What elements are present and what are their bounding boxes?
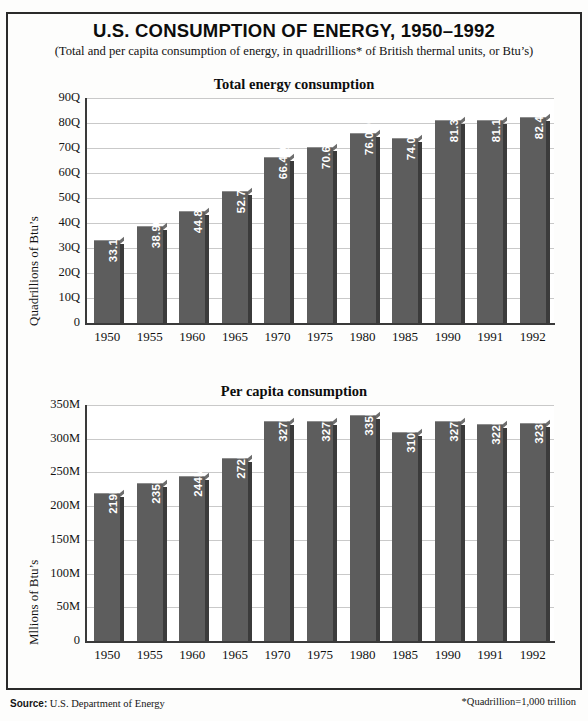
bar-rect[interactable]: 244M (179, 476, 205, 641)
bar-rect[interactable]: 327M (435, 421, 461, 641)
bar-rect[interactable]: 82.4Q (520, 117, 546, 323)
bar-rect[interactable]: 310M (392, 432, 418, 641)
bar[interactable]: 82.4Q (520, 98, 546, 323)
bar-value-label: 219M (107, 485, 119, 515)
y-axis-tick-label: 30Q (24, 240, 80, 255)
bar-value-label: 38.9Q (150, 216, 162, 248)
chart-total-energy-consumption: Total energy consumptionQuadrillions of … (0, 76, 588, 376)
bar-rect[interactable]: 74.0Q (392, 138, 418, 323)
bar-value-label: 82.4Q (533, 107, 545, 139)
bar-rect[interactable]: 219M (94, 493, 120, 641)
source-label: Source: (10, 698, 47, 709)
bar[interactable]: 235M (137, 405, 163, 641)
bar-value-label: 322M (490, 415, 502, 445)
y-axis-tick-label: 40Q (24, 215, 80, 230)
y-axis-tick-label: 250M (24, 464, 80, 479)
y-axis-tick-label: 60Q (24, 165, 80, 180)
bar-rect[interactable]: 322M (477, 424, 503, 641)
bar[interactable]: 335M (350, 405, 376, 641)
bar-value-label: 323M (533, 414, 545, 444)
bar[interactable]: 66.4Q (264, 98, 290, 323)
bar-value-label: 244M (192, 468, 204, 498)
bar-value-label: 327M (277, 412, 289, 442)
bar-value-label: 52.7Q (235, 181, 247, 213)
y-axis-tick-label: 90Q (24, 90, 80, 105)
bar-rect[interactable]: 327M (264, 421, 290, 641)
bar-rect[interactable]: 66.4Q (264, 157, 290, 323)
y-axis-tick-label: 0 (24, 633, 80, 648)
y-axis-tick-label: 0 (24, 315, 80, 330)
bar-rect[interactable]: 38.9Q (137, 226, 163, 323)
bar[interactable]: 74.0Q (392, 98, 418, 323)
bar-rect[interactable]: 235M (137, 483, 163, 641)
bar-rect[interactable]: 81.3Q (435, 120, 461, 323)
page-border-bottom (6, 688, 582, 690)
bar[interactable]: 38.9Q (137, 98, 163, 323)
bar-rect[interactable]: 70.6Q (307, 147, 333, 324)
footnote: *Quadrillion=1,000 trillion (462, 696, 576, 707)
bar[interactable]: 327M (435, 405, 461, 641)
bar[interactable]: 272M (222, 405, 248, 641)
x-axis-tick-label: 1992 (503, 647, 563, 663)
bar-rect[interactable]: 52.7Q (222, 191, 248, 323)
y-axis-line (85, 405, 87, 642)
bar[interactable]: 70.6Q (307, 98, 333, 323)
bar-value-label: 327M (320, 412, 332, 442)
bar-value-label: 76.0Q (363, 123, 375, 155)
bar-rect[interactable]: 76.0Q (350, 133, 376, 323)
source-text: U.S. Department of Energy (50, 698, 165, 709)
y-axis-tick-label: 350M (24, 397, 80, 412)
bar-rect[interactable]: 327M (307, 421, 333, 641)
plot-area: 33.1Q38.9Q44.8Q52.7Q66.4Q70.6Q76.0Q74.0Q… (86, 98, 554, 323)
bar[interactable]: 327M (307, 405, 333, 641)
x-axis-line (85, 323, 555, 325)
bar-value-label: 272M (235, 449, 247, 479)
chart-title: Per capita consumption (0, 383, 588, 400)
y-axis-tick-label: 50Q (24, 190, 80, 205)
bar-value-label: 74.0Q (405, 128, 417, 160)
bar-value-label: 335M (363, 406, 375, 436)
y-axis-tick-label: 20Q (24, 265, 80, 280)
bar-rect[interactable]: 33.1Q (94, 240, 120, 323)
bar-value-label: 81.3Q (448, 110, 460, 142)
bar-value-label: 310M (405, 423, 417, 453)
y-axis-tick-label: 80Q (24, 115, 80, 130)
bar-rect[interactable]: 335M (350, 415, 376, 641)
bar-value-label: 44.8Q (192, 201, 204, 233)
bar-rect[interactable]: 323M (520, 423, 546, 641)
bar[interactable]: 323M (520, 405, 546, 641)
page-border-top (6, 12, 582, 14)
y-axis-tick-label: 50M (24, 599, 80, 614)
bar[interactable]: 81.1Q (477, 98, 503, 323)
y-axis-tick-label: 150M (24, 532, 80, 547)
bar-value-label: 33.1Q (107, 230, 119, 262)
bar[interactable]: 244M (179, 405, 205, 641)
bar-rect[interactable]: 44.8Q (179, 211, 205, 323)
bar[interactable]: 33.1Q (94, 98, 120, 323)
bar-value-label: 327M (448, 412, 460, 442)
bar[interactable]: 310M (392, 405, 418, 641)
y-axis-tick-label: 200M (24, 498, 80, 513)
y-axis-tick-label: 100M (24, 566, 80, 581)
source-note: Source: U.S. Department of Energy (10, 698, 165, 709)
x-axis-tick-label: 1992 (503, 329, 563, 345)
bar[interactable]: 44.8Q (179, 98, 205, 323)
page-canvas: U.S. CONSUMPTION OF ENERGY, 1950–1992 (T… (0, 0, 588, 721)
bar[interactable]: 52.7Q (222, 98, 248, 323)
bar-rect[interactable]: 81.1Q (477, 120, 503, 323)
y-axis-tick-label: 10Q (24, 290, 80, 305)
x-axis-line (85, 641, 555, 643)
chart-title: Total energy consumption (0, 76, 588, 93)
page-title: U.S. CONSUMPTION OF ENERGY, 1950–1992 (8, 20, 580, 42)
bar-value-label: 66.4Q (277, 147, 289, 179)
bar[interactable]: 219M (94, 405, 120, 641)
bar-rect[interactable]: 272M (222, 458, 248, 641)
bar[interactable]: 81.3Q (435, 98, 461, 323)
bar[interactable]: 327M (264, 405, 290, 641)
page-subtitle: (Total and per capita consumption of ene… (8, 44, 580, 59)
bar[interactable]: 76.0Q (350, 98, 376, 323)
bar-value-label: 70.6Q (320, 136, 332, 168)
y-axis-tick-label: 300M (24, 431, 80, 446)
bar-value-label: 235M (150, 474, 162, 504)
bar[interactable]: 322M (477, 405, 503, 641)
